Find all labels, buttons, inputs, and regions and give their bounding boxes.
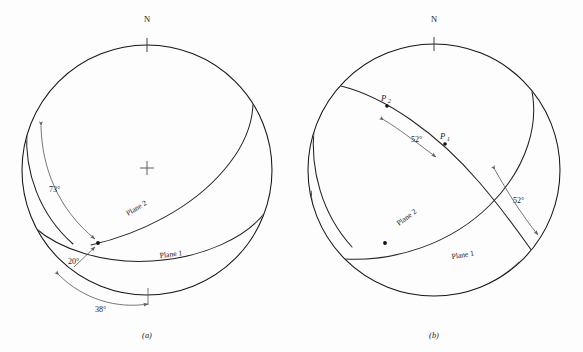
intersection-dot-b — [383, 241, 387, 245]
intersection-dot-a — [96, 241, 100, 245]
panel-b-group: N P 2 P 1 52° 52° Plane 2 Plane 1 (b) — [308, 14, 560, 340]
point-dot-p1-b — [443, 142, 447, 146]
point-dot-p2-b — [385, 104, 389, 108]
primitive-circle-b — [308, 44, 560, 296]
caption-a: (a) — [142, 331, 152, 340]
point-label-p1-sub: 1 — [447, 136, 450, 142]
great-circle-plane2-b — [341, 86, 537, 258]
great-circle-plane1-a — [34, 211, 266, 261]
great-circles-a — [23, 62, 266, 296]
plane2-label-b: Plane 2 — [395, 207, 419, 228]
stereonet-figure: N 73° 20° 38° Plane 2 Plane 1 (a) — [0, 0, 583, 352]
plane1-label-a: Plane 1 — [159, 248, 183, 260]
great-circle-plane2-a — [91, 62, 253, 245]
great-circles-b — [311, 83, 537, 298]
caption-b: (b) — [429, 331, 439, 340]
great-circle-plane2-lower-b — [313, 128, 352, 247]
plane2-label-a: Plane 2 — [124, 198, 148, 217]
angle-arc-52-upper-b — [384, 120, 436, 157]
north-label-b: N — [431, 14, 437, 24]
point-label-p1-b: P 1 — [439, 131, 450, 142]
great-circle-plane1-b — [344, 83, 534, 259]
plane1-label-b: Plane 1 — [451, 249, 475, 261]
point-label-p1-base: P — [439, 131, 446, 141]
point-label-p2-sub: 2 — [388, 98, 391, 104]
stereonet-canvas: N 73° 20° 38° Plane 2 Plane 1 (a) — [0, 0, 583, 352]
panel-a-group: N 73° 20° 38° Plane 2 Plane 1 (a) — [22, 14, 272, 340]
north-label-a: N — [144, 14, 150, 24]
angle-arc-73-a — [41, 126, 95, 239]
angle-label-20-a: 20° — [68, 257, 79, 266]
angle-label-52-upper-b: 52° — [411, 135, 422, 144]
point-label-p2-b: P 2 — [380, 93, 391, 104]
angle-label-52-lower-b: 52° — [513, 196, 524, 205]
angle-arc-38-a — [59, 275, 148, 305]
point-label-p2-base: P — [380, 93, 387, 103]
angle-label-73-a: 73° — [49, 185, 60, 194]
angle-label-38-a: 38° — [95, 305, 106, 314]
center-cross-a — [140, 161, 154, 175]
